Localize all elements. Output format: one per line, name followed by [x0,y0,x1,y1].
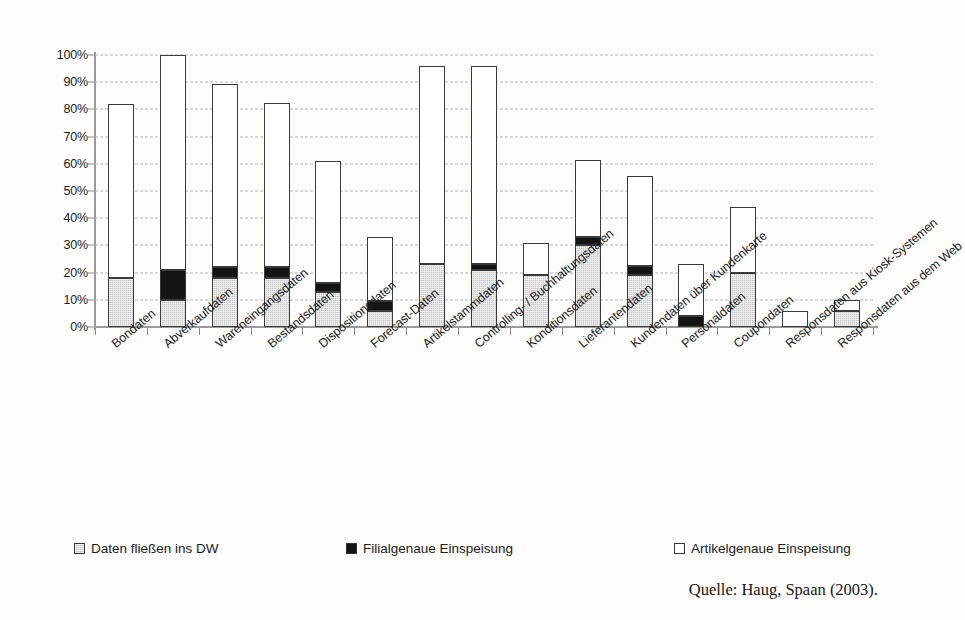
source-note: Quelle: Haug, Spaan (2003). [689,580,878,600]
legend-label: Daten fließen ins DW [91,541,219,556]
legend-item: Artikelgenaue Einspeisung [674,541,851,556]
x-axis-category-label: Wareneingangsdaten [213,266,311,351]
legend-swatch-gray [74,543,85,554]
legend-label: Filialgenaue Einspeisung [363,541,513,556]
legend-swatch-black [346,543,357,554]
chart-legend: Daten fließen ins DWFilialgenaue Einspei… [74,541,874,563]
legend-swatch-white [674,543,685,554]
legend-item: Daten fließen ins DW [74,541,219,556]
x-axis-category-label: Bondaten [109,306,158,350]
legend-label: Artikelgenaue Einspeisung [691,541,851,556]
legend-item: Filialgenaue Einspeisung [346,541,513,556]
